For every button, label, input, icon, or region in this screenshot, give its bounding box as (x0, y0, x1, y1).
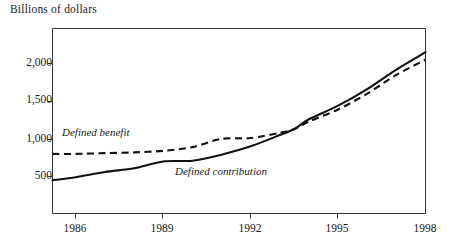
chart-figure: Billions of dollars 2,000 1,500 1,000 50… (0, 0, 450, 248)
series-line-defined-contribution (53, 52, 426, 180)
series-line-defined-benefit (53, 60, 426, 154)
plot-frame (53, 29, 426, 214)
chart-plot-area (0, 0, 450, 248)
x-tick-marks (76, 214, 338, 219)
y-tick-marks (48, 64, 53, 177)
